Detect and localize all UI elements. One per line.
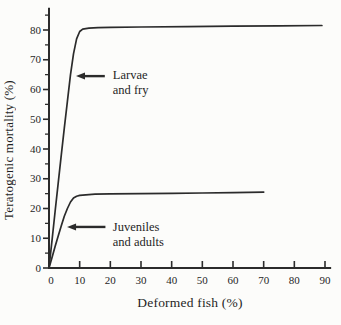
x-tick-label: 30 bbox=[136, 274, 148, 286]
chart-canvas: 010203040506070809001020304050607080Larv… bbox=[0, 0, 341, 325]
annotation-label-0-line-0: Larvae bbox=[113, 68, 148, 82]
y-axis-title: Teratogenic mortality (%) bbox=[1, 12, 17, 288]
x-tick-label: 60 bbox=[228, 274, 240, 286]
y-tick-label: 50 bbox=[30, 113, 42, 125]
x-tick-label: 20 bbox=[105, 274, 117, 286]
y-tick-label: 20 bbox=[30, 202, 42, 214]
annotation-arrow-head bbox=[76, 73, 85, 80]
y-tick-label: 40 bbox=[30, 143, 42, 155]
y-tick-label: 0 bbox=[36, 262, 42, 274]
figure: 010203040506070809001020304050607080Larv… bbox=[0, 0, 341, 325]
x-tick-label: 70 bbox=[258, 274, 270, 286]
x-tick-label: 80 bbox=[289, 274, 301, 286]
x-tick-label: 50 bbox=[197, 274, 209, 286]
y-tick-label: 70 bbox=[30, 53, 42, 65]
annotation-label-1-line-0: Juveniles bbox=[113, 220, 160, 234]
x-tick-label: 90 bbox=[320, 274, 332, 286]
series-line-larvae-and-fry bbox=[49, 26, 322, 269]
y-tick-label: 10 bbox=[30, 232, 42, 244]
x-tick-label: 0 bbox=[48, 274, 54, 286]
y-tick-label: 60 bbox=[30, 83, 42, 95]
annotation-label-1-line-1: and adults bbox=[113, 235, 164, 249]
x-tick-label: 40 bbox=[166, 274, 178, 286]
y-tick-label: 30 bbox=[30, 172, 42, 184]
x-axis-title: Deformed fish (%) bbox=[49, 295, 331, 311]
annotation-label-0-line-1: and fry bbox=[113, 83, 149, 97]
x-tick-label: 10 bbox=[74, 274, 86, 286]
annotation-arrow-head bbox=[67, 223, 76, 230]
y-tick-label: 80 bbox=[30, 24, 42, 36]
